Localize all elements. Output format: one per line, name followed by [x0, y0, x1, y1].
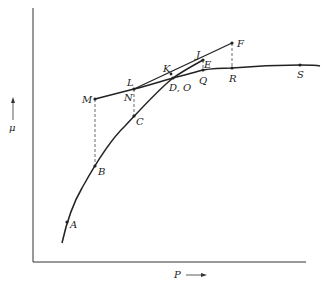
point-D-O	[171, 76, 174, 79]
label-S: S	[297, 69, 304, 80]
label-C: C	[136, 116, 144, 127]
up-arrow-icon	[11, 97, 15, 120]
label-F: F	[236, 38, 245, 49]
label-N: N	[123, 92, 134, 103]
point-R	[230, 66, 233, 69]
y-axis-label: μ	[9, 122, 16, 133]
label-E: E	[203, 59, 212, 70]
label-J: J	[194, 49, 201, 60]
x-axis-label: P	[173, 269, 181, 280]
label-K: K	[162, 63, 171, 74]
label-A: A	[69, 219, 77, 230]
diagram-canvas: μ P A B C D, O	[0, 0, 326, 286]
point-S	[298, 63, 301, 66]
diagram-svg: μ P A B C D, O	[0, 0, 326, 286]
label-D-O: D, O	[168, 82, 191, 93]
label-R: R	[228, 73, 237, 84]
point-M	[93, 97, 96, 100]
label-Q: Q	[199, 75, 207, 86]
point-F	[230, 41, 233, 44]
point-A	[65, 220, 68, 223]
right-arrow-icon	[186, 273, 207, 277]
label-L: L	[126, 77, 134, 88]
label-M: M	[81, 94, 93, 105]
point-B	[93, 164, 96, 167]
label-B: B	[97, 166, 105, 177]
